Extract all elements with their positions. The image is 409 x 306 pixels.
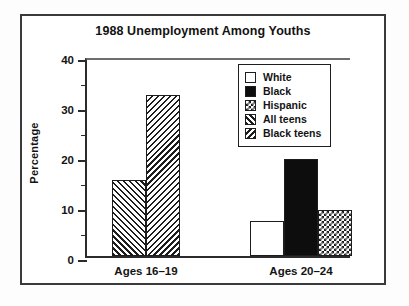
- legend-item-all-teens: All teens: [245, 113, 321, 126]
- bar-black: [284, 159, 318, 257]
- legend-label: All teens: [263, 114, 307, 125]
- legend-label: Black: [263, 86, 291, 97]
- y-tick-0: [78, 260, 87, 262]
- legend-swatch-icon: [245, 128, 256, 139]
- y-minor-tick-35: [81, 85, 87, 86]
- figure: 1988 Unemployment Among Youths Percentag…: [0, 0, 409, 306]
- y-tick-40: [78, 60, 87, 62]
- y-tick-label-0: 0: [68, 254, 74, 266]
- y-axis-title: Percentage: [28, 122, 40, 183]
- bar-all-teens: [112, 180, 146, 256]
- y-tick-20: [78, 160, 87, 162]
- legend-item-black-teens: Black teens: [245, 127, 321, 140]
- y-tick-label-30: 30: [61, 104, 74, 116]
- y-tick-30: [78, 110, 87, 112]
- legend-item-black: Black: [245, 85, 321, 98]
- y-minor-tick-25: [81, 135, 87, 136]
- chart-title: 1988 Unemployment Among Youths: [20, 24, 386, 38]
- legend-item-white: White: [245, 71, 321, 84]
- legend-label: White: [263, 72, 292, 83]
- y-tick-10: [78, 210, 87, 212]
- y-minor-tick-15: [81, 185, 87, 186]
- legend-label: Hispanic: [263, 100, 307, 111]
- legend-item-hispanic: Hispanic: [245, 99, 321, 112]
- y-minor-tick-5: [81, 235, 87, 236]
- x-group-label-2: Ages 20–24: [269, 265, 332, 277]
- bar-hispanic: [318, 210, 352, 256]
- bar-black-teens: [146, 95, 180, 256]
- bar-white: [250, 221, 284, 256]
- legend-swatch-icon: [245, 72, 256, 83]
- y-tick-label-10: 10: [61, 204, 74, 216]
- legend-swatch-icon: [245, 114, 256, 125]
- chart-legend: WhiteBlackHispanicAll teensBlack teens: [238, 64, 331, 147]
- x-group-label-1: Ages 16–19: [114, 265, 177, 277]
- y-tick-label-40: 40: [61, 54, 74, 66]
- y-tick-label-20: 20: [61, 154, 74, 166]
- legend-label: Black teens: [263, 128, 321, 139]
- legend-swatch-icon: [245, 100, 256, 111]
- legend-swatch-icon: [245, 86, 256, 97]
